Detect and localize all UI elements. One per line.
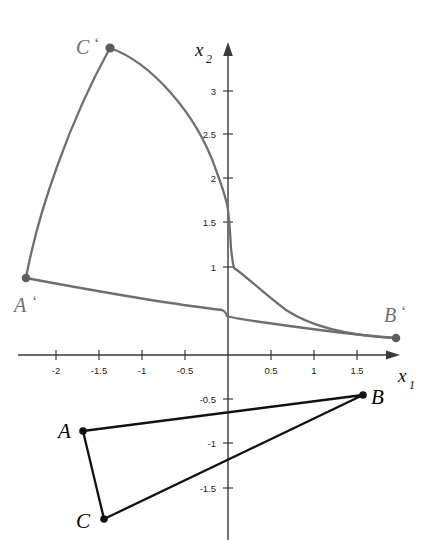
image-label-b-prime: B ʻ bbox=[384, 303, 406, 326]
y-tick-label: -0.5 bbox=[200, 394, 216, 405]
curve-aprime-cprime bbox=[26, 48, 110, 278]
coordinate-plot: -2 -1.5 -1 -0.5 0.5 1 1.5 3 2.5 2 1.5 1 … bbox=[0, 0, 435, 553]
point-marker-a bbox=[79, 427, 87, 435]
x-tick-label: 1 bbox=[311, 365, 316, 376]
x-tick-group: -2 -1.5 -1 -0.5 0.5 1 1.5 bbox=[52, 350, 364, 376]
y-axis-arrowhead bbox=[223, 42, 233, 56]
axis-label-x1: x 1 bbox=[397, 365, 415, 392]
point-marker-b bbox=[359, 391, 367, 399]
label-a-prime: A bbox=[12, 294, 27, 316]
x-axis-name-subscript: 1 bbox=[409, 378, 415, 392]
x-axis-arrowhead bbox=[386, 350, 400, 359]
triangle-outline bbox=[83, 395, 363, 519]
x-tick-label: 1.5 bbox=[350, 365, 363, 376]
prime-mark-c: ʻ bbox=[94, 35, 99, 52]
point-marker-c-prime bbox=[105, 43, 114, 52]
y-tick-label: 2.5 bbox=[203, 129, 216, 140]
x-tick-label: -1.5 bbox=[91, 365, 107, 376]
y-tick-label: 1.5 bbox=[203, 217, 216, 228]
curve-cprime-bprime bbox=[110, 48, 396, 338]
label-c-prime: C bbox=[76, 36, 90, 58]
x-tick-label: -0.5 bbox=[177, 365, 193, 376]
label-c: C bbox=[76, 509, 91, 533]
y-tick-label: -1.5 bbox=[200, 483, 216, 494]
x-tick-label: -1 bbox=[138, 365, 146, 376]
point-marker-a-prime bbox=[22, 274, 31, 283]
image-label-a-prime: A ʻ bbox=[12, 293, 37, 316]
x-tick-label: 0.5 bbox=[264, 365, 277, 376]
y-tick-label: 3 bbox=[211, 86, 216, 97]
prime-mark-a: ʻ bbox=[32, 293, 37, 310]
y-tick-label: -1 bbox=[208, 438, 216, 449]
y-tick-label: 2 bbox=[211, 173, 216, 184]
curve-aprime-bprime bbox=[26, 278, 396, 338]
prime-mark-b: ʻ bbox=[401, 303, 406, 320]
x-tick-label: -2 bbox=[52, 365, 60, 376]
triangle-abc bbox=[79, 391, 367, 523]
axis-label-x2: x 2 bbox=[194, 39, 212, 66]
math-figure-container: -2 -1.5 -1 -0.5 0.5 1 1.5 3 2.5 2 1.5 1 … bbox=[0, 0, 435, 553]
label-b: B bbox=[371, 385, 384, 409]
y-axis-name-subscript: 2 bbox=[206, 52, 212, 66]
label-a: A bbox=[56, 419, 71, 443]
y-axis-name: x bbox=[194, 39, 204, 60]
label-b-prime: B bbox=[384, 304, 396, 326]
point-marker-b-prime bbox=[392, 334, 401, 343]
point-marker-c bbox=[100, 515, 108, 523]
image-label-c-prime: C ʻ bbox=[76, 35, 99, 58]
y-tick-label: 1 bbox=[211, 262, 216, 273]
x-axis-name: x bbox=[397, 365, 407, 386]
